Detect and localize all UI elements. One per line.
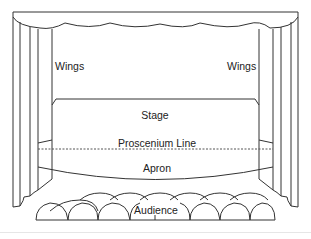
stage-label: Stage: [141, 109, 169, 121]
right-curtain: [259, 17, 298, 207]
valance: [13, 12, 298, 28]
apron-label: Apron: [143, 162, 171, 174]
audience-label: Audience: [134, 204, 178, 216]
left-curtain: [13, 17, 52, 207]
stage-back-edge: [52, 99, 259, 105]
bottom-divider: [0, 232, 311, 233]
wings-left-label: Wings: [55, 60, 84, 72]
proscenium-line-label: Proscenium Line: [118, 137, 196, 149]
stage-diagram: Wings Wings Stage Proscenium Line Apron …: [0, 0, 311, 239]
wings-right-label: Wings: [227, 60, 256, 72]
